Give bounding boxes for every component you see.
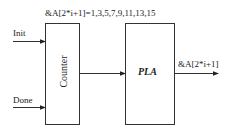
init-label: Init <box>13 28 26 38</box>
output-label: &A[2*i+1] <box>178 59 219 69</box>
done-label: Done <box>13 95 33 105</box>
counter-label: Counter <box>58 49 69 95</box>
address-sequence-label: &A[2*i+1]=1,3,5,7,9,11,13,15 <box>45 8 156 18</box>
pla-label: PLA <box>138 66 157 77</box>
